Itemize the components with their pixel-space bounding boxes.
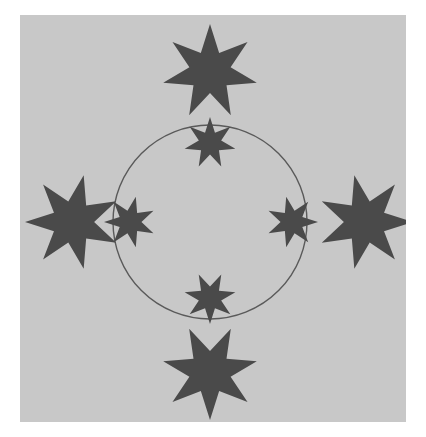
outer-star-left (25, 175, 116, 269)
outer-star-right (322, 175, 406, 269)
page-root: The Perfect Circle (0, 0, 426, 437)
outer-stars-group (25, 24, 406, 420)
inner-stars-group (104, 117, 318, 324)
outer-star-top (163, 24, 257, 115)
inner-star-bottom (185, 275, 236, 324)
illustration-panel (20, 15, 406, 422)
stars-and-circle-figure (20, 15, 406, 422)
inner-star-top (185, 117, 236, 166)
inner-star-right (269, 197, 318, 248)
page-title: The Perfect Circle (0, 0, 426, 7)
outer-star-bottom (163, 329, 257, 420)
